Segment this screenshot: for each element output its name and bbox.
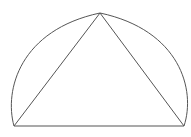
geometry-figure xyxy=(0,0,191,137)
arc-outline xyxy=(11,13,187,126)
triangle-left-side xyxy=(14,13,100,126)
triangle-right-side xyxy=(100,13,184,126)
diagram-canvas xyxy=(0,0,191,137)
